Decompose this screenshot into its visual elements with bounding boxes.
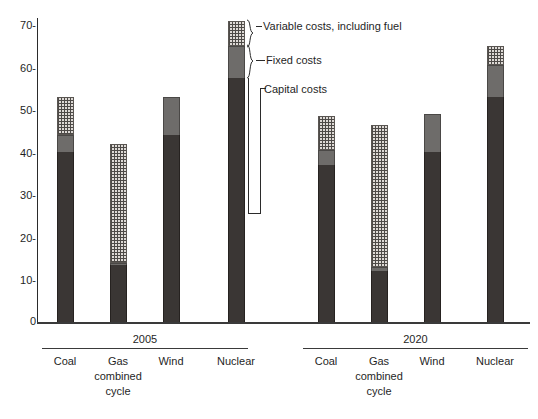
chart-container: 70- 60- 50- 40- 30- 20- 10- 0 <box>0 0 538 419</box>
y-tick-label-70: 70- <box>6 20 36 31</box>
bar-segment-capital <box>487 97 504 322</box>
y-axis-line <box>37 18 38 323</box>
y-tick-label-40: 40- <box>6 148 36 159</box>
group-label-2020: 2020 <box>303 333 528 345</box>
y-tick-label-0: 0 <box>6 316 36 327</box>
bar-segment-variable <box>110 144 127 263</box>
bar-segment-fixed <box>487 65 504 97</box>
category-label-2005-wind: Wind <box>139 354 203 369</box>
bar-segment-capital <box>371 271 388 322</box>
category-label-line1: Wind <box>139 354 203 369</box>
group-rule-2005 <box>42 348 248 349</box>
legend-label-capital-costs: Capital costs <box>264 83 327 95</box>
category-label-2020-wind: Wind <box>400 354 464 369</box>
fixed-costs-brace <box>246 44 258 80</box>
group-label-2005: 2005 <box>42 333 248 345</box>
bar-segment-capital <box>57 152 74 322</box>
bar-segment-variable <box>318 116 335 150</box>
bar-2020-coal <box>318 116 335 322</box>
capital-costs-bracket-bottom <box>248 213 261 214</box>
bar-segment-variable <box>228 21 245 46</box>
fixed-costs-leader <box>256 60 265 61</box>
bar-2020-nuclear <box>487 46 504 322</box>
legend-label-fixed-costs: Fixed costs <box>266 54 322 66</box>
variable-costs-leader <box>256 26 262 27</box>
category-label-line3: cycle <box>347 384 411 399</box>
y-tick-label-30: 30- <box>6 190 36 201</box>
category-label-line2: combined <box>347 369 411 384</box>
category-label-2005-nuclear: Nuclear <box>204 354 268 369</box>
bar-segment-variable <box>57 97 74 135</box>
bar-segment-capital <box>424 152 441 322</box>
capital-costs-bracket-inner <box>248 78 249 214</box>
group-rule-2020 <box>303 348 528 349</box>
plot-area: 70- 60- 50- 40- 30- 20- 10- 0 <box>0 0 538 419</box>
y-tick-label-20: 20- <box>6 233 36 244</box>
y-tick-label-10: 10- <box>6 275 36 286</box>
y-tick-label-50: 50- <box>6 105 36 116</box>
bar-2020-wind <box>424 114 441 322</box>
bar-2005-nuclear <box>228 21 245 322</box>
capital-costs-bracket-vertical <box>260 88 261 213</box>
legend-label-variable-costs: Variable costs, including fuel <box>263 20 402 32</box>
category-label-2020-nuclear: Nuclear <box>463 354 527 369</box>
bar-segment-fixed <box>57 135 74 152</box>
bar-2005-coal <box>57 97 74 322</box>
category-label-line3: cycle <box>86 384 150 399</box>
bar-segment-fixed <box>228 46 245 78</box>
bar-2005-gas-combined-cycle <box>110 144 127 322</box>
bar-segment-fixed <box>318 150 335 165</box>
bar-2020-gas-combined-cycle <box>371 125 388 322</box>
bar-2005-wind <box>163 97 180 322</box>
bar-segment-capital <box>318 165 335 322</box>
bar-segment-capital <box>228 78 245 322</box>
bar-segment-fixed <box>424 114 441 152</box>
category-label-line1: Nuclear <box>463 354 527 369</box>
bar-segment-fixed <box>163 97 180 135</box>
x-axis-baseline <box>37 322 530 324</box>
category-label-line1: Nuclear <box>204 354 268 369</box>
y-tick-label-60: 60- <box>6 63 36 74</box>
category-label-line2: combined <box>86 369 150 384</box>
bar-segment-capital <box>163 135 180 322</box>
bar-segment-variable <box>487 46 504 65</box>
category-label-line1: Wind <box>400 354 464 369</box>
bar-segment-capital <box>110 265 127 322</box>
bar-segment-variable <box>371 125 388 267</box>
